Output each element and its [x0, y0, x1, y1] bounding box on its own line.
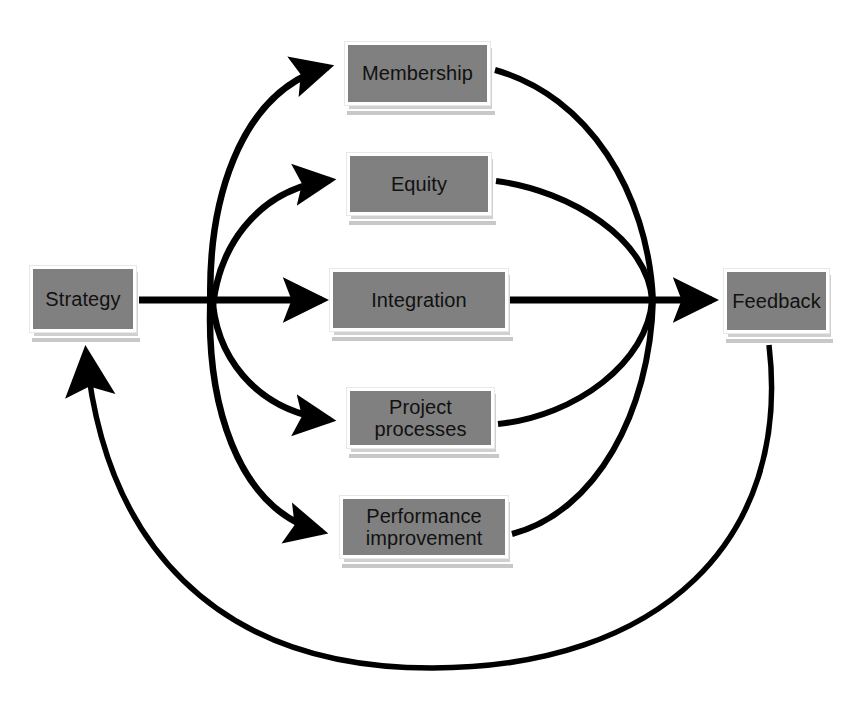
node-project-processes-label: Project processes — [370, 396, 470, 441]
node-equity-label: Equity — [387, 173, 451, 195]
edge-project-processes-to-hub — [498, 300, 652, 424]
node-membership-underbar — [347, 111, 495, 115]
edge-layer — [0, 0, 857, 716]
node-feedback[interactable]: Feedback — [724, 269, 829, 333]
node-integration[interactable]: Integration — [330, 269, 508, 331]
node-membership[interactable]: Membership — [345, 42, 490, 105]
node-strategy[interactable]: Strategy — [30, 266, 136, 332]
node-strategy-underbar — [32, 338, 140, 342]
node-performance-improvement[interactable]: Performance improvement — [340, 496, 508, 558]
node-integration-label: Integration — [367, 289, 471, 311]
node-performance-improvement-label: Performance improvement — [362, 505, 487, 550]
node-feedback-label: Feedback — [728, 290, 825, 312]
node-project-processes-underbar — [349, 454, 499, 458]
edge-hub-to-membership — [210, 67, 328, 318]
node-feedback-underbar — [726, 339, 833, 343]
node-integration-underbar — [332, 337, 513, 341]
node-project-processes[interactable]: Project processes — [347, 388, 494, 448]
edge-hub-to-performance-improvement — [210, 288, 322, 532]
edge-hub-to-project-processes — [212, 292, 330, 420]
process-flow-diagram: Strategy Membership Equity Integration P… — [0, 0, 857, 716]
node-strategy-label: Strategy — [41, 288, 124, 310]
node-equity[interactable]: Equity — [347, 153, 491, 215]
node-equity-underbar — [349, 221, 496, 225]
node-membership-label: Membership — [358, 62, 477, 84]
node-performance-improvement-underbar — [342, 564, 513, 568]
